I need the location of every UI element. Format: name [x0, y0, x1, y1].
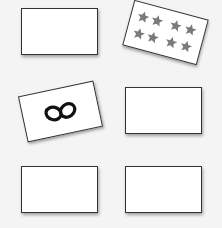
- card-6-face-down[interactable]: [125, 166, 202, 213]
- card-1-face-down[interactable]: [21, 8, 98, 55]
- card-5-face-down[interactable]: [21, 166, 98, 213]
- card-3-infinity[interactable]: [18, 81, 103, 143]
- infinity-icon: [19, 82, 102, 142]
- stars-icon: [123, 1, 207, 64]
- card-4-face-down[interactable]: [125, 87, 202, 134]
- card-2-stars[interactable]: [122, 0, 209, 65]
